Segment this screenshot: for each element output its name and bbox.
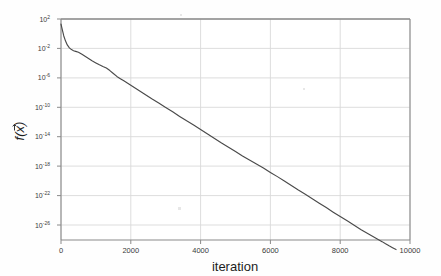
xtick-label: 0 bbox=[59, 246, 63, 255]
ytick-mantissa: 10 bbox=[35, 192, 43, 199]
ytick-exponent: -10 bbox=[43, 102, 50, 108]
scan-artifact bbox=[303, 88, 305, 90]
ytick-mantissa: 10 bbox=[35, 163, 43, 170]
xtick-label: 4000 bbox=[192, 246, 209, 255]
ytick-mantissa: 10 bbox=[38, 45, 46, 52]
xtick-label: 10000 bbox=[400, 246, 421, 255]
ytick-exponent: -26 bbox=[43, 220, 50, 226]
ytick-exponent: -22 bbox=[43, 190, 50, 196]
xtick-label: 8000 bbox=[332, 246, 349, 255]
ytick-mantissa: 10 bbox=[39, 16, 47, 23]
ytick-exponent: -6 bbox=[46, 72, 51, 78]
ytick-mantissa: 10 bbox=[35, 222, 43, 229]
ytick-mantissa: 10 bbox=[38, 74, 46, 81]
ytick-exponent: -14 bbox=[43, 131, 50, 137]
chart-figure: 102 10-2 10-6 10-10 10-14 10-18 10-22 10… bbox=[0, 0, 441, 276]
scan-artifact bbox=[178, 207, 181, 210]
ytick-exponent: -2 bbox=[46, 43, 51, 49]
line-chart: 102 10-2 10-6 10-10 10-14 10-18 10-22 10… bbox=[0, 0, 441, 276]
y-axis-title: f(x) bbox=[12, 122, 27, 141]
plot-area-background bbox=[61, 19, 410, 240]
xtick-label: 2000 bbox=[122, 246, 139, 255]
ytick-exponent: 2 bbox=[47, 14, 50, 20]
ytick-exponent: -18 bbox=[43, 161, 50, 167]
xtick-label: 6000 bbox=[262, 246, 279, 255]
ytick-mantissa: 10 bbox=[35, 104, 43, 111]
scan-artifact bbox=[180, 14, 182, 16]
x-axis-title: iteration bbox=[212, 259, 258, 274]
ytick-mantissa: 10 bbox=[35, 133, 43, 140]
